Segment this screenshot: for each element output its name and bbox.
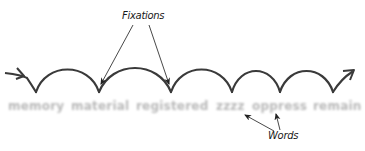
word-2: material <box>71 99 129 113</box>
eye-movement-diagram: Fixations Words memory material register… <box>0 0 365 151</box>
word-4: zzzz <box>216 99 245 113</box>
saccade-arcs <box>27 68 352 92</box>
words-row: memory material registered zzzz oppress … <box>0 99 365 115</box>
word-1: memory <box>8 99 64 113</box>
fixations-label: Fixations <box>122 10 164 21</box>
word-6: remain <box>313 99 362 113</box>
words-label: Words <box>268 130 298 141</box>
word-5: oppress <box>252 99 307 113</box>
saccade-path-svg <box>0 0 365 151</box>
start-arrow-icon <box>5 68 27 79</box>
word-pointers <box>245 114 280 131</box>
word-3: registered <box>136 99 208 113</box>
